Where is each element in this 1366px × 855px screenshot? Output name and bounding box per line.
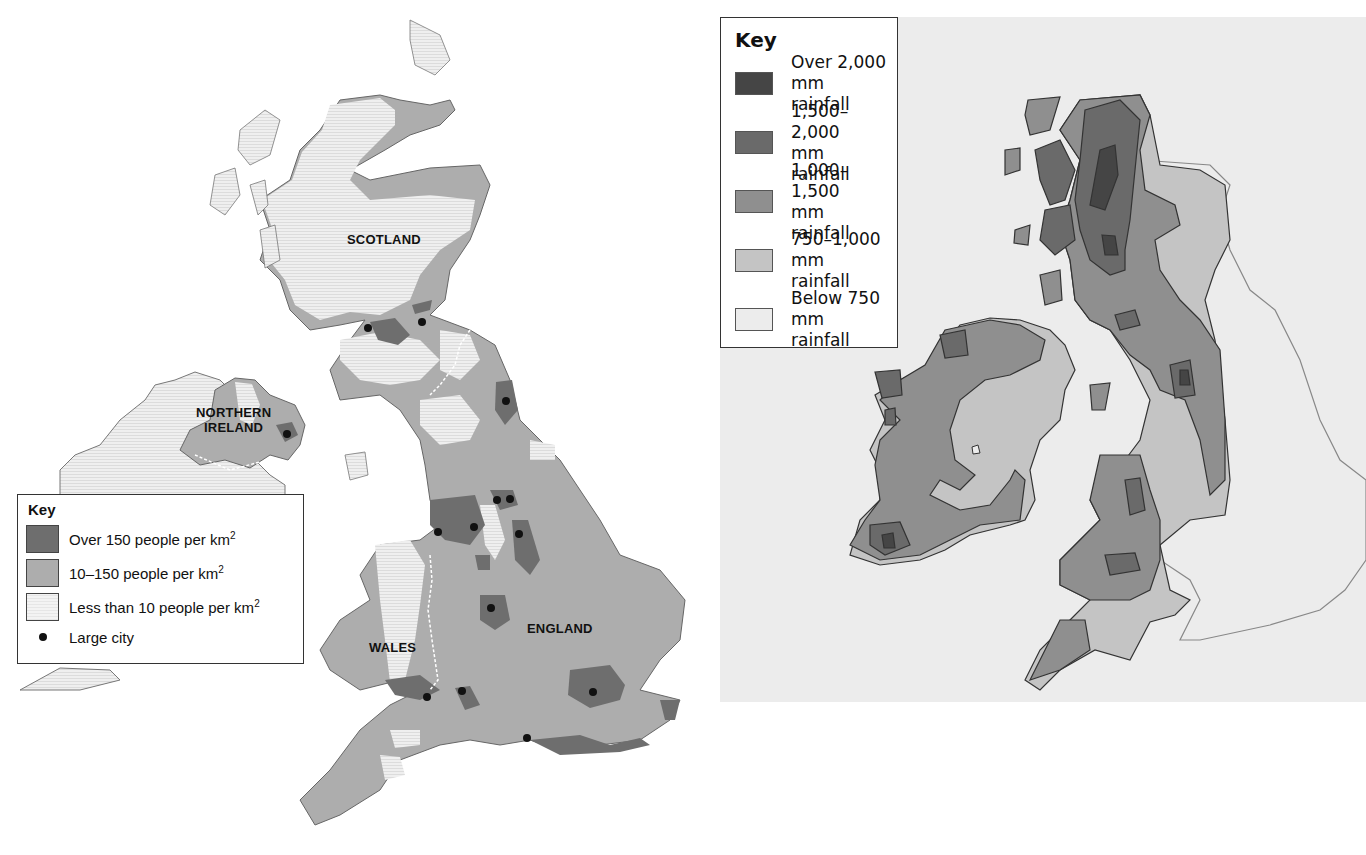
city-dot-icon — [26, 633, 59, 641]
key-swatch-over-2000 — [735, 72, 773, 95]
region-label-wales: WALES — [369, 640, 416, 655]
key-swatch-dense — [26, 525, 59, 553]
population-map-svg — [0, 0, 700, 855]
key-item-10-150: 10–150 people per km2 — [26, 556, 295, 590]
key-swatch-750-1000 — [735, 249, 773, 272]
key-swatch-1500-2000 — [735, 131, 773, 154]
rainfall-key: Key Over 2,000mm rainfall 1,500–2,000mm … — [720, 17, 898, 348]
region-label-england: ENGLAND — [527, 621, 593, 636]
population-density-map: SCOTLAND NORTHERN IRELAND WALES ENGLAND … — [0, 0, 700, 855]
rainfall-key-title: Key — [735, 28, 887, 52]
population-key-title: Key — [28, 501, 295, 518]
key-item-over-150: Over 150 people per km2 — [26, 522, 295, 556]
key-item-1000-1500: 1,000–1,500mm rainfall — [735, 172, 887, 231]
region-label-scotland: SCOTLAND — [347, 232, 421, 247]
region-label-northern-ireland: NORTHERN IRELAND — [196, 405, 271, 435]
key-swatch-below-750 — [735, 308, 773, 331]
key-item-below-750: Below 750mm rainfall — [735, 290, 887, 349]
key-item-large-city: Large city — [26, 624, 295, 650]
key-swatch-sparse — [26, 593, 59, 621]
key-item-750-1000: 750–1,000mm rainfall — [735, 231, 887, 290]
population-key: Key Over 150 people per km2 10–150 peopl… — [17, 494, 304, 664]
key-swatch-1000-1500 — [735, 190, 773, 213]
key-swatch-medium — [26, 559, 59, 587]
key-item-less-than-10: Less than 10 people per km2 — [26, 590, 295, 624]
